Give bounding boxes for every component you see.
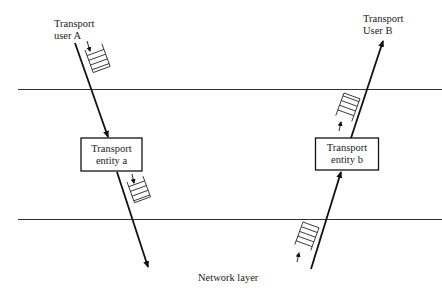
- transport-user-a-label: Transport user A: [54, 18, 94, 42]
- label-line: Transport: [81, 143, 142, 155]
- label-line: entity b: [315, 154, 379, 166]
- label-line: Transport: [54, 18, 94, 30]
- queue-input-arrow-icon: [339, 122, 341, 131]
- flow-arrow-network-to-entity-b: [311, 172, 341, 269]
- queue-icon: [127, 176, 150, 202]
- label-line: Transport: [363, 13, 403, 25]
- network-layer-label: Network layer: [198, 272, 258, 284]
- queue-input-arrow-icon: [87, 41, 90, 51]
- queue-icon: [336, 93, 360, 121]
- label-line: user A: [54, 30, 94, 42]
- transport-entity-a-label: Transport entity a: [81, 143, 142, 167]
- transport-user-b-label: Transport User B: [363, 13, 403, 37]
- label-line: entity a: [81, 155, 142, 167]
- transport-entity-b-label: Transport entity b: [315, 142, 379, 166]
- queue-input-arrow-icon: [132, 174, 134, 183]
- label-line: User B: [363, 25, 403, 37]
- queue-input-arrow-icon: [297, 253, 299, 262]
- label-line: Transport: [315, 142, 379, 154]
- queue-icon: [295, 222, 319, 250]
